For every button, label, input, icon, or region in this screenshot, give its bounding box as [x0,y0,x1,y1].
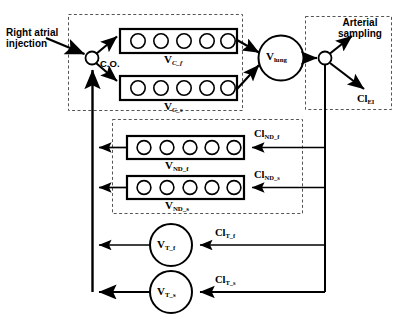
arterial-sampling-label: Arterial sampling [338,18,382,39]
arrow-co-to-v-c-f [96,37,117,55]
clearance-label-cl-t-s: ClT_s [215,274,236,286]
compartment-label-v-t-f: VT_f [157,239,175,251]
arterial-junction-node [319,52,332,65]
arrow-to-cl-ei [330,63,364,89]
compartment-label-v-t-s: VT_s [157,286,176,298]
compartment-label-v-lung: Vlung [266,51,287,63]
cardiac-output-label: C.O. [100,59,120,69]
arrow-v-c-s-to-lung [237,65,259,89]
arrow-v-c-f-to-lung [237,40,259,53]
compartment-label-v-nd-f: VND_f [165,160,188,172]
clearance-label-cl-nd-f: ClND_f [254,128,279,140]
compartment-label-v-c-f: VC_f [164,54,182,66]
compartment-v-nd-s-box [127,176,244,199]
clearance-label-cl-ei: ClEI [357,93,374,105]
diagram-svg [0,0,401,331]
compartment-v-c-f-box [120,29,237,53]
compartment-label-v-nd-s: VND_s [165,200,189,212]
clearance-label-cl-nd-s: ClND_s [254,169,280,181]
compartment-v-c-s-box [120,76,237,100]
clearance-label-cl-t-f: ClT_f [215,227,235,239]
right-atrial-injection-label: Right atrial injection [6,28,58,49]
diagram-canvas: Right atrial injection C.O. Arterial sam… [0,0,401,331]
compartment-label-v-c-s: VC_s [164,101,183,113]
compartment-v-nd-f-box [127,136,244,159]
